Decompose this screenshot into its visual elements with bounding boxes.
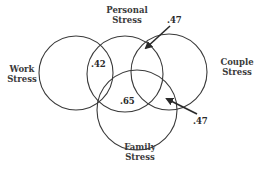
personal-stress-label-line1: Personal	[106, 5, 148, 15]
couple-stress-circle	[131, 34, 207, 110]
personal-stress-label-line2: Stress	[112, 15, 142, 25]
couple-family-value: .47	[193, 116, 208, 126]
family-stress-label-line2: Stress	[125, 152, 155, 162]
work-stress-label-line2: Stress	[7, 74, 37, 84]
couple-stress-label-line1: Couple	[220, 57, 254, 67]
personal-family-value: .65	[120, 96, 135, 106]
personal-couple-value: .47	[167, 15, 182, 25]
venn-diagram: Work Stress Personal Stress Couple Stres…	[0, 0, 264, 170]
family-stress-label-line1: Family	[124, 142, 157, 152]
work-personal-value: .42	[91, 59, 106, 69]
work-stress-circle	[39, 36, 113, 110]
work-stress-label-line1: Work	[9, 64, 36, 74]
personal-couple-arrow-icon	[146, 26, 170, 48]
venn-svg: Work Stress Personal Stress Couple Stres…	[0, 0, 264, 170]
couple-stress-label-line2: Stress	[222, 67, 252, 77]
